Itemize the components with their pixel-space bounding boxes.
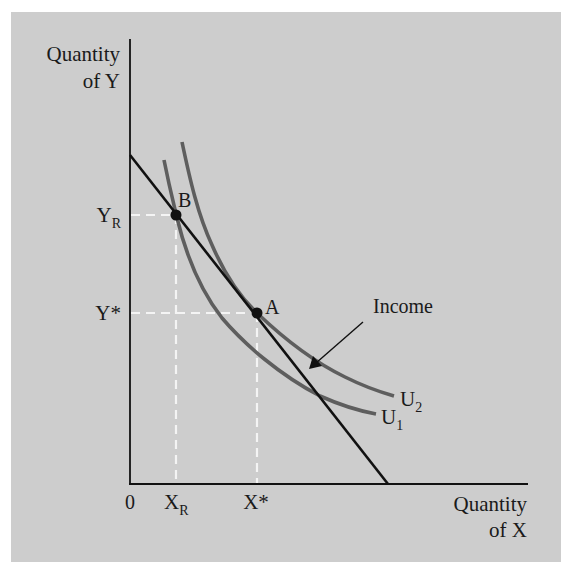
x-tick-xr: XR: [164, 490, 189, 518]
y-tick-ystar: Y*: [95, 301, 121, 325]
origin-label: 0: [125, 491, 135, 513]
budget-line: [130, 155, 388, 484]
point-b-marker: [171, 210, 182, 221]
curve-label-u2: U2: [400, 387, 422, 415]
point-a-marker: [252, 308, 263, 319]
x-axis-label-line1: Quantity: [454, 492, 528, 516]
point-a-label: A: [265, 296, 280, 318]
point-b-label: B: [178, 189, 191, 211]
y-axis-label-line1: Quantity: [47, 42, 121, 66]
indifference-diagram: Quantity of Y Quantity of X 0 YR Y* XR X…: [0, 0, 572, 582]
x-axis-label-line2: of X: [489, 518, 527, 542]
guide-lines: [131, 215, 257, 483]
y-tick-yr: YR: [96, 203, 121, 231]
income-arrow: [309, 322, 363, 369]
income-label: Income: [373, 295, 433, 317]
x-tick-xstar: X*: [243, 490, 269, 514]
y-axis-label-line2: of Y: [83, 69, 120, 93]
